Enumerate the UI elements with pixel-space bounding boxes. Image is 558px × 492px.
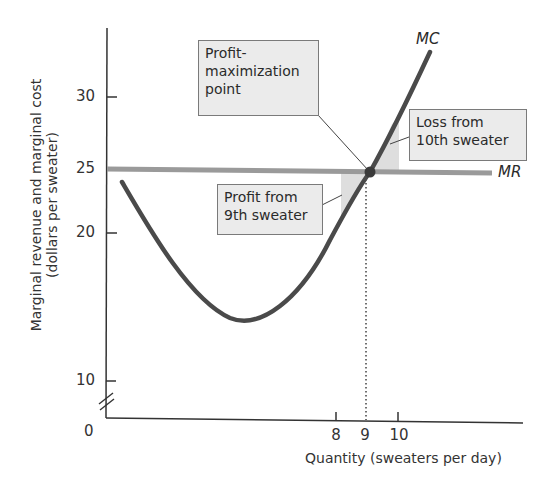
profit-max-point bbox=[365, 167, 376, 178]
callout-text: 10th sweater bbox=[416, 131, 520, 149]
callout-loss-10th-sweater: Loss from 10th sweater bbox=[409, 109, 527, 161]
y-axis bbox=[106, 28, 107, 418]
y-tick-label-30: 30 bbox=[55, 89, 95, 104]
x-tick-label-8: 8 bbox=[321, 428, 351, 443]
callout-text: Profit- bbox=[205, 44, 312, 62]
y-tick-label-10: 10 bbox=[55, 373, 95, 388]
callout-text: Profit from bbox=[224, 188, 316, 206]
x-axis-title: Quantity (sweaters per day) bbox=[305, 450, 502, 466]
mc-label: MC bbox=[416, 30, 439, 48]
x-tick-label-10: 10 bbox=[384, 428, 414, 443]
callout-text: maximization bbox=[205, 62, 312, 80]
x-axis bbox=[106, 418, 523, 423]
callout-text: point bbox=[205, 80, 312, 98]
y-axis-title-line2: (dollars per sweater) bbox=[44, 25, 60, 385]
mr-line bbox=[107, 169, 492, 173]
y-axis-title: Marginal revenue and marginal cost (doll… bbox=[28, 25, 60, 385]
leader-profit bbox=[322, 195, 342, 205]
callout-profit-maximization-point: Profit- maximization point bbox=[198, 40, 319, 116]
chart-figure: 30 25 20 10 0 8 9 10 Quantity (sweaters … bbox=[0, 0, 558, 492]
callout-text: Loss from bbox=[416, 113, 520, 131]
y-tick-label-25: 25 bbox=[55, 161, 95, 176]
callout-text: 9th sweater bbox=[224, 206, 316, 224]
y-tick-label-20: 20 bbox=[55, 225, 95, 240]
y-axis-title-line1: Marginal revenue and marginal cost bbox=[28, 25, 44, 385]
origin-label: 0 bbox=[84, 424, 94, 439]
callout-profit-9th-sweater: Profit from 9th sweater bbox=[217, 184, 323, 235]
leader-profit-max bbox=[318, 115, 368, 170]
mr-label: MR bbox=[498, 163, 521, 181]
x-tick-label-9: 9 bbox=[350, 428, 380, 443]
